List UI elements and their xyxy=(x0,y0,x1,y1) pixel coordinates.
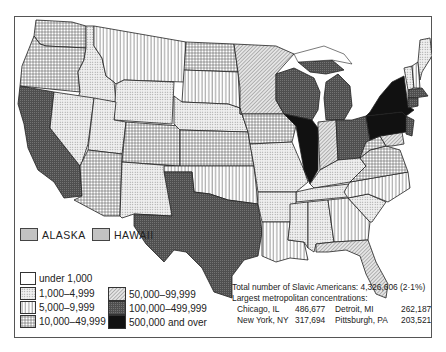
legend-item-500000-over: 500,000 and over xyxy=(108,315,207,329)
vertical-lines-swatch-icon xyxy=(20,301,36,314)
total-text: Total number of Slavic Americans: 4,326,… xyxy=(232,282,441,293)
metro-value: 317,694 xyxy=(295,315,335,326)
metro-value: 203,521 xyxy=(401,315,441,326)
state-kansas xyxy=(180,130,254,166)
state-wisconsin xyxy=(276,68,320,120)
state-montana xyxy=(94,26,186,84)
state-north-dakota xyxy=(184,42,238,72)
legend-label: 50,000–99,999 xyxy=(129,289,196,300)
metro-value: 262,187 xyxy=(401,304,441,315)
state-new-jersey xyxy=(406,116,414,136)
legend-item-1000-4999: 1,000–4,999 xyxy=(20,287,95,300)
metro-value: 486,677 xyxy=(295,304,335,315)
legend-item-100000-499999: 100,000–499,999 xyxy=(108,301,207,315)
legend-label: 100,000–499,999 xyxy=(129,303,207,314)
legend-item-10000-49999: 10,000–49,999 xyxy=(20,315,106,328)
state-wyoming xyxy=(114,80,174,124)
alaska-label: ALASKA xyxy=(42,229,86,241)
state-missouri xyxy=(250,142,308,192)
diagonal-hatch-swatch-icon xyxy=(108,287,126,301)
legend-label: 1,000–4,999 xyxy=(39,288,95,299)
legend-label: 10,000–49,999 xyxy=(39,316,106,327)
legend-label: 500,000 and over xyxy=(129,317,207,328)
metro-city: Detroit, MI xyxy=(335,304,401,315)
inset-hawaii: HAWAII xyxy=(92,228,154,241)
alaska-swatch xyxy=(20,228,38,241)
summary-block: Total number of Slavic Americans: 4,326,… xyxy=(232,282,441,326)
dots-swatch-icon xyxy=(20,287,36,300)
grid-swatch-icon xyxy=(20,315,36,328)
hawaii-swatch xyxy=(92,228,110,241)
inset-alaska: ALASKA xyxy=(20,228,86,241)
state-washington xyxy=(34,20,86,48)
state-colorado xyxy=(122,122,180,166)
state-massachusetts xyxy=(408,88,428,98)
black-swatch-icon xyxy=(108,315,126,329)
blank-swatch-icon xyxy=(20,272,36,285)
legend-item-under-1000: under 1,000 xyxy=(20,272,92,285)
hawaii-label: HAWAII xyxy=(114,229,154,241)
metro-city: New York, NY xyxy=(237,315,295,326)
metro-city: Pittsburgh, PA xyxy=(335,315,401,326)
state-connecticut xyxy=(408,98,418,108)
dark-gray-swatch-icon xyxy=(108,301,126,315)
legend-label: 5,000–9,999 xyxy=(39,302,95,313)
legend-item-50000-99999: 50,000–99,999 xyxy=(108,287,196,301)
legend-item-5000-9999: 5,000–9,999 xyxy=(20,301,95,314)
metro-heading: Largest metropolitan concentrations: xyxy=(232,293,441,304)
legend-label: under 1,000 xyxy=(39,273,92,284)
metro-city: Chicago, IL xyxy=(237,304,295,315)
metro-table: Chicago, IL 486,677 Detroit, MI 262,187 … xyxy=(232,304,441,326)
state-maine xyxy=(418,38,432,80)
